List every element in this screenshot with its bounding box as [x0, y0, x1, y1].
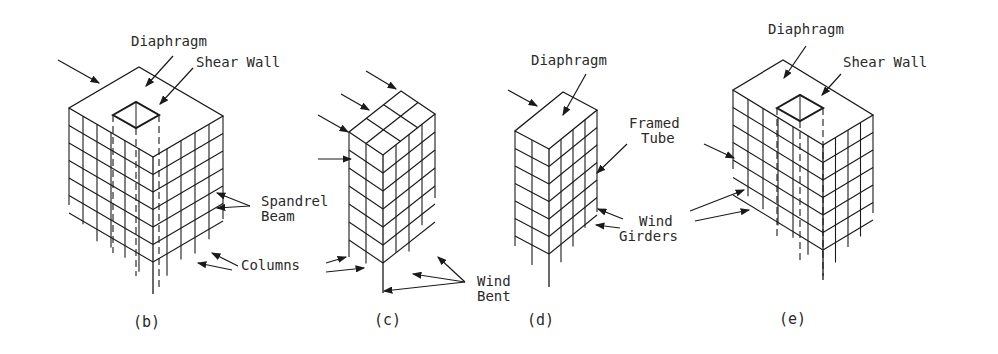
wind-girder-leader-icon	[596, 225, 620, 228]
load-arrow-icon	[318, 115, 348, 132]
shear-wall-leader-icon	[160, 68, 193, 104]
label-spandrel-beam: Spandrel Beam	[261, 194, 328, 224]
label-framed-tube: Framed Tube	[629, 116, 680, 146]
diaphragm-leader-icon	[146, 56, 173, 86]
columns-leader-icon	[198, 263, 232, 270]
framed-tube-leader-icon	[597, 144, 627, 173]
load-arrow-icon	[341, 94, 369, 110]
building-b-shear-wall-frame	[69, 67, 223, 294]
label-diaphragm: Diaphragm	[768, 22, 844, 37]
label-columns: Columns	[241, 258, 300, 273]
label-shear-wall: Shear Wall	[843, 55, 927, 70]
load-arrow-icon	[508, 90, 537, 106]
building-e-tube-with-core	[733, 60, 873, 280]
load-arrow-icon	[58, 60, 99, 83]
wind-bent-leader-icon	[384, 282, 465, 291]
columns-leader-icon	[326, 257, 346, 263]
label-shear-wall: Shear Wall	[196, 55, 280, 70]
leader-arrows	[58, 46, 841, 291]
label-diaphragm: Diaphragm	[131, 34, 207, 49]
building-c-wind-bent	[349, 91, 435, 293]
caption-d: (d)	[527, 311, 554, 329]
spandrel-leader-icon	[217, 206, 250, 208]
label-wind-bent: Wind Bent	[477, 274, 511, 304]
caption-c: (c)	[374, 311, 401, 329]
columns-leader-icon	[326, 268, 364, 272]
framed-tube-leader-icon	[704, 144, 734, 158]
caption-b: (b)	[133, 313, 160, 331]
label-wind-girders: Wind Girders	[619, 214, 678, 244]
wind-girder-leader-icon	[690, 190, 744, 211]
building-d-framed-tube	[515, 92, 597, 287]
label-diaphragm: Diaphragm	[531, 53, 607, 68]
wind-girder-leader-icon	[695, 210, 749, 221]
load-arrow-icon	[366, 71, 396, 89]
structural-systems-figure: Diaphragm Shear Wall Spandrel Beam Colum…	[0, 0, 998, 354]
shear-wall-leader-icon	[822, 74, 841, 95]
caption-e: (e)	[779, 310, 806, 328]
columns-leader-icon	[212, 253, 238, 266]
